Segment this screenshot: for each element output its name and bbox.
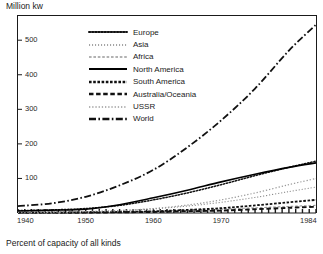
legend-swatch-icon [88,26,128,38]
legend-item[interactable]: Africa [88,51,228,63]
legend-item-label: Europe [133,28,159,37]
legend-item[interactable]: USSR [88,100,228,112]
x-axis-tick-label: 1984 [300,217,317,225]
y-axis-tick-label: 500 [25,36,38,44]
legend-item[interactable]: Asia [88,38,228,50]
legend-swatch-icon [88,88,128,100]
legend: EuropeAsiaAfricaNorth AmericaSouth Ameri… [88,26,228,125]
legend-item[interactable]: Europe [88,26,228,38]
legend-item-label: Africa [133,52,153,61]
y-axis-tick-label: 300 [25,105,38,113]
legend-swatch-icon [88,51,128,63]
legend-item-label: South America [133,77,185,86]
legend-swatch-icon [88,39,128,51]
legend-item-label: North America [133,65,184,74]
x-axis-tick-label: 1970 [213,217,230,225]
legend-swatch-icon [88,101,128,113]
legend-item[interactable]: Australia/Oceania [88,88,228,100]
y-axis-tick-label: 100 [25,174,38,182]
legend-item-label: Australia/Oceania [133,90,196,99]
x-axis-tick-label: 1960 [145,217,162,225]
series-line [18,187,316,212]
x-axis-tick-label: 1940 [17,217,34,225]
chart-caption: Percent of capacity of all kinds [6,238,121,249]
legend-item[interactable]: South America [88,76,228,88]
chart-container: Million kw 100200300400500 1940195019601… [0,0,323,254]
legend-item-label: World [133,114,154,123]
legend-item-label: Asia [133,40,149,49]
legend-swatch-icon [88,63,128,75]
legend-item[interactable]: North America [88,63,228,75]
y-axis-tick-label: 400 [25,71,38,79]
y-axis-tick-label: 200 [25,140,38,148]
legend-swatch-icon [88,76,128,88]
legend-item-label: USSR [133,102,155,111]
legend-swatch-icon [88,113,128,125]
legend-item[interactable]: World [88,113,228,125]
x-axis-tick-label: 1950 [77,217,94,225]
